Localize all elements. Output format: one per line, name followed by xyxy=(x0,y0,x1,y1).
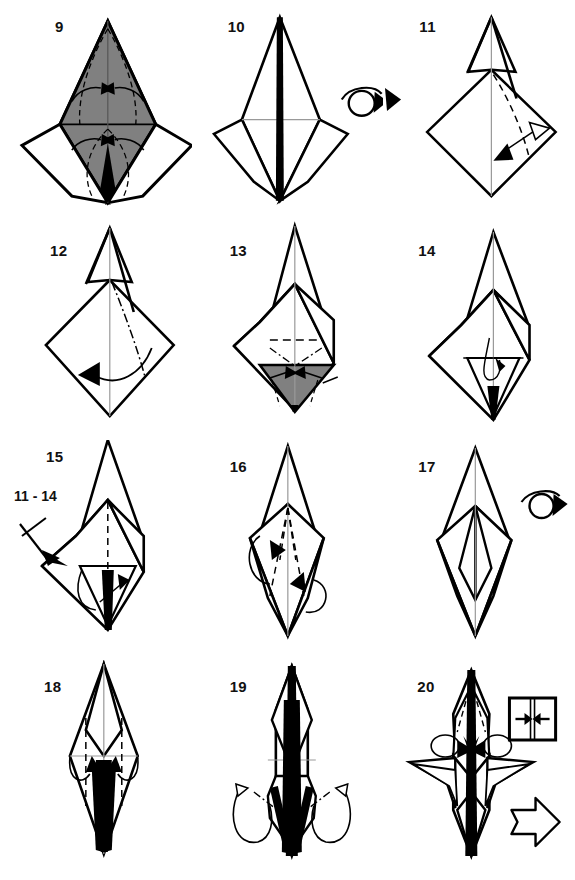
panel-11-figure xyxy=(383,0,575,220)
step-number-17: 17 xyxy=(418,458,435,475)
panel-step-13: 13 xyxy=(192,220,384,440)
layered-form xyxy=(234,226,334,412)
panel-10-figure xyxy=(192,0,384,220)
step-number-13: 13 xyxy=(230,242,247,259)
step-number-18: 18 xyxy=(44,678,61,695)
origami-diagram-page: 9 10 xyxy=(0,0,575,880)
step-number-15: 15 xyxy=(46,448,63,465)
panel-14-figure xyxy=(383,220,575,440)
next-step-arrow xyxy=(512,798,560,846)
narrow-bird-base xyxy=(214,17,348,201)
step-number-14: 14 xyxy=(418,242,435,259)
panel-12-figure xyxy=(0,220,192,440)
turn-over-symbol[interactable] xyxy=(522,491,568,518)
panel-grid: 9 10 xyxy=(0,0,575,880)
step-number-9: 9 xyxy=(55,18,64,35)
tall-slim-form xyxy=(70,664,138,854)
panel-18-figure xyxy=(0,660,192,880)
panel-15-figure xyxy=(0,440,192,660)
panel-13-figure xyxy=(192,220,384,440)
step-number-11: 11 xyxy=(419,18,435,35)
panel-step-20: 20 xyxy=(383,660,575,880)
turn-over-symbol[interactable] xyxy=(341,88,383,116)
panel-step-18: 18 xyxy=(0,660,192,880)
panel-step-10: 10 xyxy=(192,0,384,220)
step-number-20: 20 xyxy=(417,678,434,695)
turn-over-symbol-continued xyxy=(385,88,401,111)
step-number-16: 16 xyxy=(230,458,247,475)
step-number-10: 10 xyxy=(228,18,245,35)
panel-16-figure xyxy=(192,440,384,660)
panel-step-19: 19 xyxy=(192,660,384,880)
layered-form xyxy=(429,232,529,420)
panel-step-11: 11 xyxy=(383,0,575,220)
panel-step-17: 17 xyxy=(383,440,575,660)
panel-step-16: 16 xyxy=(192,440,384,660)
panel-step-9: 9 xyxy=(0,0,192,220)
kite-with-points xyxy=(427,17,555,196)
step-number-12: 12 xyxy=(50,242,67,259)
shaded-bird-base xyxy=(22,21,192,203)
step-number-19: 19 xyxy=(230,678,247,695)
panel-9-figure xyxy=(0,0,192,220)
slim-layered-form xyxy=(438,448,512,636)
repeat-range-label: 11 - 14 xyxy=(14,488,57,504)
narrow-body-form xyxy=(268,666,316,856)
panel-17-figure xyxy=(383,440,575,660)
panel-20-figure xyxy=(383,660,575,880)
panel-step-14: 14 xyxy=(383,220,575,440)
slim-diamond-form xyxy=(250,446,324,636)
layered-form xyxy=(42,440,144,630)
panel-19-figure xyxy=(192,660,384,880)
panel-step-15: 15 11 - 14 xyxy=(0,440,192,660)
press-flat-symbol xyxy=(510,698,556,740)
panel-step-12: 12 xyxy=(0,220,192,440)
